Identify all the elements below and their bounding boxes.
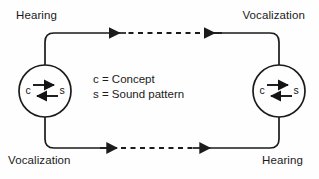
legend-line-sound-pattern: s = Sound pattern <box>93 87 184 102</box>
left-node-letter-c: c <box>25 84 30 96</box>
top-path-left-solid <box>45 33 110 65</box>
bottom-path-left-solid <box>45 117 107 148</box>
top-path-group <box>45 33 279 65</box>
bottom-path-group <box>45 117 279 148</box>
right-node-letter-s: s <box>293 84 298 96</box>
right-node-letter-c: c <box>259 84 264 96</box>
top-path-right-solid <box>212 33 279 65</box>
left-node: c s <box>19 65 71 117</box>
legend-line-concept: c = Concept <box>93 72 184 87</box>
label-hearing-bottom-right: Hearing <box>262 155 303 167</box>
diagram-canvas: c s c s Hearing Vocalization Vocalizatio… <box>0 0 319 179</box>
right-node: c s <box>253 65 305 117</box>
left-node-letter-s: s <box>59 84 64 96</box>
bottom-path-right-solid <box>210 117 279 148</box>
legend: c = Concept s = Sound pattern <box>93 72 184 102</box>
label-vocalization-top-right: Vocalization <box>242 10 305 22</box>
label-hearing-top-left: Hearing <box>16 10 57 22</box>
label-vocalization-bottom-left: Vocalization <box>8 155 71 167</box>
